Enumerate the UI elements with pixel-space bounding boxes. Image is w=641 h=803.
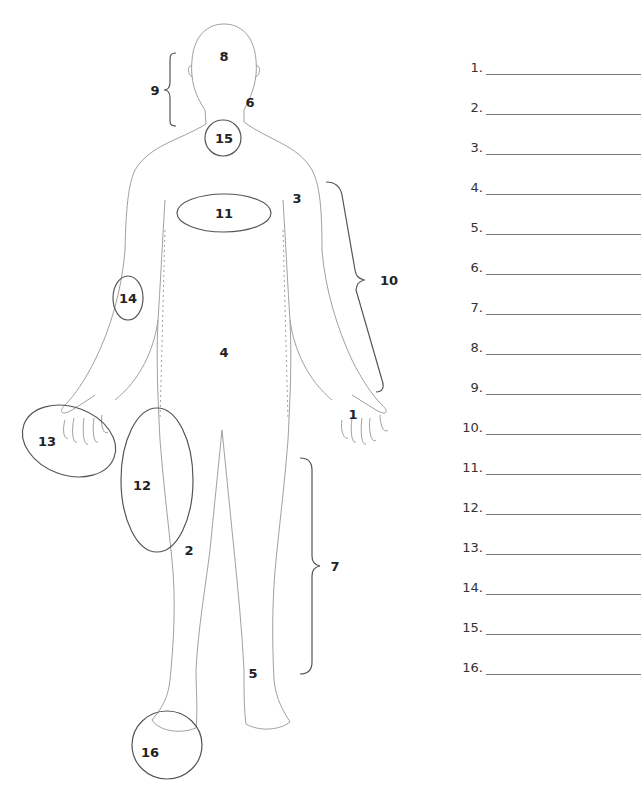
body-outline-figure (0, 0, 641, 803)
answer-row-6: 6. (440, 260, 641, 280)
answer-row-16: 16. (440, 660, 641, 680)
brace-7 (300, 458, 320, 674)
answer-blank[interactable] (486, 314, 641, 315)
answer-number: 9. (471, 380, 483, 395)
answer-number: 8. (471, 340, 483, 355)
answer-blank[interactable] (486, 194, 641, 195)
answer-row-5: 5. (440, 220, 641, 240)
answer-number: 11. (462, 460, 483, 475)
answer-blank[interactable] (486, 474, 641, 475)
answer-blank[interactable] (486, 594, 641, 595)
answer-number: 4. (471, 180, 483, 195)
answer-row-8: 8. (440, 340, 641, 360)
label-16: 16 (141, 745, 159, 760)
label-1: 1 (348, 407, 357, 422)
answer-blank[interactable] (486, 634, 641, 635)
answer-blank[interactable] (486, 154, 641, 155)
label-3: 3 (292, 191, 301, 206)
label-5: 5 (248, 666, 257, 681)
torso-outline (61, 124, 206, 413)
answer-number: 7. (471, 300, 483, 315)
label-9: 9 (150, 83, 159, 98)
answer-row-1: 1. (440, 60, 641, 80)
label-10: 10 (380, 273, 398, 288)
brace-10 (326, 182, 383, 392)
circle-13 (12, 393, 125, 490)
answer-row-15: 15. (440, 620, 641, 640)
answer-blank[interactable] (486, 554, 641, 555)
answer-number: 13. (462, 540, 483, 555)
answer-blank[interactable] (486, 394, 641, 395)
answer-number: 12. (462, 500, 483, 515)
answer-row-12: 12. (440, 500, 641, 520)
answer-row-9: 9. (440, 380, 641, 400)
circle-12 (121, 408, 193, 552)
label-7: 7 (330, 559, 339, 574)
legs-outline (152, 320, 222, 731)
label-13: 13 (38, 434, 56, 449)
answer-row-11: 11. (440, 460, 641, 480)
answer-number: 2. (471, 100, 483, 115)
answer-row-13: 13. (440, 540, 641, 560)
answer-row-7: 7. (440, 300, 641, 320)
answer-number: 3. (471, 140, 483, 155)
label-11: 11 (215, 206, 233, 221)
answer-row-3: 3. (440, 140, 641, 160)
answer-number: 5. (471, 220, 483, 235)
answer-blank[interactable] (486, 74, 641, 75)
body-diagram-worksheet: 1 2 3 4 5 6 7 8 9 10 11 12 13 14 15 16 (0, 0, 641, 803)
answer-blank[interactable] (486, 674, 641, 675)
answer-number: 16. (462, 660, 483, 675)
label-15: 15 (215, 131, 233, 146)
answer-blank[interactable] (486, 114, 641, 115)
label-14: 14 (119, 291, 137, 306)
answer-number: 10. (462, 420, 483, 435)
label-6: 6 (245, 95, 254, 110)
answer-blank[interactable] (486, 354, 641, 355)
answer-number: 6. (471, 260, 483, 275)
answer-number: 1. (471, 60, 483, 75)
answer-number: 15. (462, 620, 483, 635)
answer-row-4: 4. (440, 180, 641, 200)
label-8: 8 (219, 49, 228, 64)
answer-blank[interactable] (486, 234, 641, 235)
label-2: 2 (184, 543, 193, 558)
answer-number: 14. (462, 580, 483, 595)
answer-row-14: 14. (440, 580, 641, 600)
answer-blank[interactable] (486, 434, 641, 435)
label-12: 12 (133, 478, 151, 493)
answer-blank[interactable] (486, 274, 641, 275)
brace-9 (164, 53, 176, 126)
answer-row-2: 2. (440, 100, 641, 120)
answer-blank[interactable] (486, 514, 641, 515)
answer-row-10: 10. (440, 420, 641, 440)
label-4: 4 (219, 345, 228, 360)
